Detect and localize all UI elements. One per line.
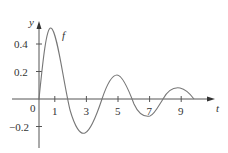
x-axis-label: t (216, 102, 220, 114)
curve-f (39, 28, 194, 133)
x-tick-label: 5 (115, 105, 121, 117)
x-tick-label: 3 (84, 105, 90, 117)
curve-label-f: f (62, 29, 67, 41)
damped-oscillation-chart: y t f 0 1 3 5 7 9 0.4 0.2 −0.2 (0, 0, 228, 153)
origin-label: 0 (30, 102, 36, 114)
y-tick-label: 0.2 (14, 66, 28, 78)
y-axis-label: y (28, 16, 34, 28)
y-tick-label: −0.2 (9, 121, 29, 133)
x-tick-label: 1 (52, 105, 58, 117)
x-tick-label: 9 (178, 105, 184, 117)
x-axis-arrow-icon (207, 97, 215, 102)
y-axis-arrow-icon (37, 21, 42, 29)
y-tick-label: 0.4 (14, 38, 28, 50)
